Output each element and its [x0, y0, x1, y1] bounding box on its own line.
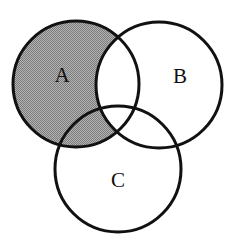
set-label-b: B — [173, 64, 187, 88]
set-label-a: A — [54, 63, 70, 87]
set-label-c: C — [111, 168, 125, 192]
venn-diagram-figure: A B C — [0, 0, 239, 251]
venn-diagram-canvas: A B C — [0, 0, 239, 251]
